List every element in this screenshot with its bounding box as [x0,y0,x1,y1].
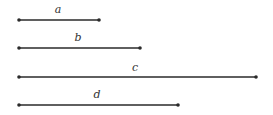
segment-d: d [17,88,180,107]
segment-a-start-point [17,18,21,22]
segments-diagram: a b c d [0,0,273,115]
segment-c-start-point [17,75,21,79]
segment-b-label: b [74,31,81,44]
segment-b: b [17,31,142,50]
segment-b-start-point [17,46,21,50]
segment-d-label: d [93,88,100,101]
segment-c: c [17,61,258,79]
segment-d-end-point [176,103,180,107]
segment-b-end-point [138,46,142,50]
segment-a-label: a [55,3,62,16]
segment-a-end-point [97,18,101,22]
segment-d-start-point [17,103,21,107]
segment-c-label: c [132,61,138,74]
segment-c-end-point [254,75,258,79]
segment-a: a [17,3,101,22]
